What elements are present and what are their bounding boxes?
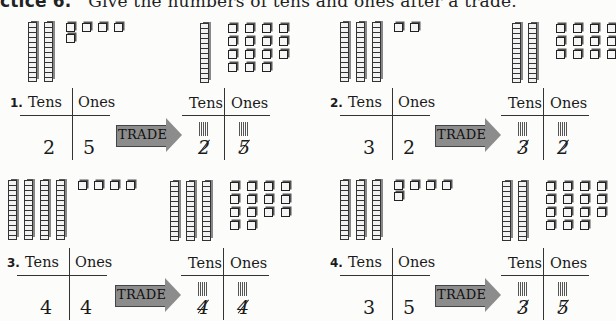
ones-cube-icon: [264, 208, 273, 217]
ones-cube-icon: [281, 182, 290, 191]
table-divider: [223, 248, 224, 320]
ones-cube-icon: [230, 221, 239, 230]
ones-cube-icon: [556, 37, 565, 46]
tens-rod-icon: [56, 180, 65, 240]
ones-cube-icon: [281, 195, 290, 204]
ones-cube-icon: [245, 63, 254, 72]
ones-cube-icon: [394, 23, 403, 32]
ones-cube-icon: [82, 23, 91, 32]
ones-cube-icon: [66, 34, 75, 43]
ones-cube-icon: [426, 181, 435, 190]
ones-cube-icon: [546, 182, 555, 191]
table-divider: [72, 88, 73, 160]
tally-marks-icon: [238, 282, 248, 296]
problem-1: 1.TensOnes25 TRADETensOnes25: [0, 0, 303, 160]
ones-cube-icon: [573, 24, 582, 33]
ones-cube-icon: [607, 50, 616, 59]
ones-cube-icon: [262, 37, 271, 46]
tens-rod-icon: [340, 180, 349, 240]
tens-header: Tens: [28, 94, 62, 110]
ones-cube-icon: [98, 23, 107, 32]
trade-label: TRADE: [437, 127, 486, 142]
ones-cube-icon: [230, 182, 239, 191]
ones-header: Ones: [230, 255, 267, 271]
ones-cube-icon: [245, 50, 254, 59]
table-divider: [182, 115, 270, 116]
problem-number: 4.: [330, 256, 343, 270]
problem-4: 4.TensOnes35 TRADETensOnes35: [310, 160, 613, 320]
tens-header: Tens: [508, 95, 542, 111]
tens-header: Tens: [189, 95, 223, 111]
trade-arrow-icon: TRADE: [435, 118, 501, 152]
tally-marks-icon: [199, 122, 209, 136]
problem-number: 2.: [330, 96, 343, 110]
ones-cube-icon: [597, 182, 606, 191]
ones-cube-icon: [563, 221, 572, 230]
table-divider: [340, 115, 430, 116]
ones-value: 5: [403, 296, 415, 318]
tens-crossed-value: 3: [517, 136, 529, 158]
ones-cube-icon: [597, 195, 606, 204]
ones-cube-icon: [607, 24, 616, 33]
tens-header: Tens: [25, 254, 59, 270]
tens-rod-icon: [502, 181, 511, 241]
tally-marks-icon: [518, 122, 528, 136]
ones-cube-icon: [590, 37, 599, 46]
ones-cube-icon: [607, 37, 616, 46]
ones-cube-icon: [573, 50, 582, 59]
ones-cube-icon: [247, 221, 256, 230]
ones-value: 4: [80, 296, 92, 318]
ones-header: Ones: [550, 255, 587, 271]
ones-cube-icon: [573, 37, 582, 46]
table-divider: [224, 88, 225, 160]
table-divider: [20, 115, 110, 116]
tens-value: 4: [40, 296, 52, 318]
tens-rod-icon: [200, 23, 209, 83]
ones-header: Ones: [78, 94, 115, 110]
tens-rod-icon: [202, 181, 211, 241]
problem-3: 3.TensOnes44 TRADETensOnes44: [0, 160, 303, 320]
ones-cube-icon: [394, 192, 403, 201]
ones-cube-icon: [394, 181, 403, 190]
ones-cube-icon: [228, 37, 237, 46]
ones-cube-icon: [247, 208, 256, 217]
ones-cube-icon: [66, 23, 75, 32]
ones-cube-icon: [262, 50, 271, 59]
tens-rod-icon: [28, 22, 37, 82]
tens-rod-icon: [372, 180, 381, 240]
ones-cube-icon: [247, 182, 256, 191]
tens-value: 3: [363, 136, 375, 158]
tally-marks-icon: [558, 282, 568, 296]
tens-header: Tens: [348, 254, 382, 270]
tens-crossed-value: 4: [197, 296, 209, 318]
table-divider: [543, 248, 544, 320]
table-divider: [17, 275, 107, 276]
ones-cube-icon: [563, 195, 572, 204]
problem-number: 1.: [10, 96, 23, 110]
ones-cube-icon: [230, 195, 239, 204]
table-divider: [69, 248, 70, 320]
ones-cube-icon: [410, 181, 419, 190]
ones-cube-icon: [247, 195, 256, 204]
ones-crossed-value: 5: [557, 296, 569, 318]
ones-cube-icon: [556, 50, 565, 59]
table-divider: [501, 275, 589, 276]
tens-rod-icon: [512, 23, 521, 83]
tally-marks-icon: [198, 282, 208, 296]
table-divider: [543, 88, 544, 160]
trade-label: TRADE: [118, 127, 167, 142]
ones-cube-icon: [264, 195, 273, 204]
ones-cube-icon: [546, 221, 555, 230]
ones-cube-icon: [114, 23, 123, 32]
tens-crossed-value: 3: [517, 296, 529, 318]
tally-marks-icon: [518, 282, 528, 296]
tens-crossed-value: 2: [198, 136, 210, 158]
tally-marks-icon: [239, 122, 249, 136]
ones-cube-icon: [279, 37, 288, 46]
ones-cube-icon: [94, 181, 103, 190]
tens-header: Tens: [188, 255, 222, 271]
ones-cube-icon: [245, 24, 254, 33]
tens-rod-icon: [24, 180, 33, 240]
ones-cube-icon: [228, 50, 237, 59]
trade-arrow-icon: TRADE: [435, 278, 501, 312]
